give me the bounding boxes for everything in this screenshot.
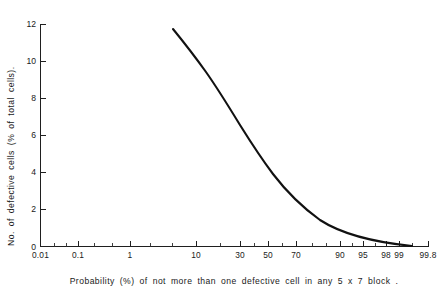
- x-tick-label: 10: [191, 250, 201, 260]
- x-tick-label: 1: [128, 250, 133, 260]
- x-tick-label: 99: [394, 250, 404, 260]
- x-axis-tick-labels: 0.01 0.1 1 10 30 50 70 90 95 98 99 99.8: [32, 250, 437, 260]
- y-axis-title: No. of defective cells (% of total cells…: [6, 67, 16, 247]
- x-axis-minor-ticks: [54, 243, 412, 247]
- y-axis-ticks: [41, 24, 47, 247]
- y-tick-label: 6: [31, 130, 36, 140]
- y-tick-label: 8: [31, 93, 36, 103]
- y-tick-label: 10: [26, 56, 36, 66]
- x-tick-label: 99.8: [419, 250, 436, 260]
- x-tick-label: 0.01: [32, 250, 49, 260]
- y-tick-label: 12: [26, 19, 36, 29]
- x-tick-label: 30: [235, 250, 245, 260]
- y-tick-label: 4: [31, 167, 36, 177]
- chart-plot-area: 0 2 4 6 8 10 12: [0, 0, 447, 295]
- y-axis-tick-labels: 0 2 4 6 8 10 12: [26, 19, 36, 252]
- x-tick-label: 95: [358, 250, 368, 260]
- y-tick-label: 2: [31, 204, 36, 214]
- x-axis-ticks: [41, 241, 429, 247]
- x-tick-label: 50: [263, 250, 273, 260]
- x-tick-label: 70: [291, 250, 301, 260]
- x-tick-label: 98: [381, 250, 391, 260]
- chart-figure: 0 2 4 6 8 10 12: [0, 0, 447, 295]
- x-tick-label: 90: [335, 250, 345, 260]
- x-tick-label: 0.1: [72, 250, 84, 260]
- x-axis-title: Probability (%) of not more than one def…: [70, 276, 399, 286]
- defective-cells-curve: [173, 29, 412, 246]
